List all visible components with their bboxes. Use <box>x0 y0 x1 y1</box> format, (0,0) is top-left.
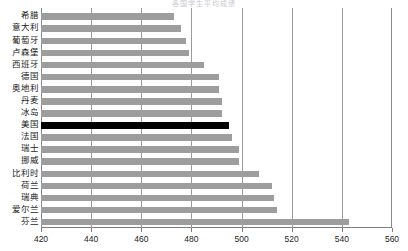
bar-瑞士 <box>41 146 239 153</box>
category-label-卢森堡: 卢森堡 <box>0 48 39 57</box>
x-tick-mark-520 <box>292 228 293 232</box>
x-tick-label-520: 520 <box>272 234 312 244</box>
bar-荷兰 <box>41 183 272 190</box>
category-label-瑞士: 瑞士 <box>0 144 39 153</box>
bar-美国 <box>41 122 229 129</box>
x-tick-mark-420 <box>41 228 42 232</box>
category-label-德国: 德国 <box>0 72 39 81</box>
bar-希腊 <box>41 13 174 20</box>
bar-row <box>41 11 392 24</box>
bar-row <box>41 193 392 206</box>
bar-row <box>41 35 392 48</box>
bar-冰岛 <box>41 110 222 117</box>
bar-芬兰 <box>41 219 349 226</box>
bar-法国 <box>41 134 232 141</box>
x-tick-label-460: 460 <box>121 234 161 244</box>
category-label-葡萄牙: 葡萄牙 <box>0 36 39 45</box>
x-tick-mark-500 <box>242 228 243 232</box>
bar-row <box>41 72 392 85</box>
x-tick-mark-560 <box>392 228 393 232</box>
bar-row <box>41 60 392 73</box>
bar-葡萄牙 <box>41 38 186 45</box>
category-label-瑞典: 瑞典 <box>0 193 39 202</box>
x-tick-mark-460 <box>141 228 142 232</box>
bar-row <box>41 120 392 133</box>
bar-row <box>41 132 392 145</box>
x-tick-label-560: 560 <box>372 234 408 244</box>
x-axis: 420440460480500520540560 <box>0 228 408 250</box>
category-label-挪威: 挪威 <box>0 156 39 165</box>
bar-row <box>41 205 392 218</box>
x-tick-label-540: 540 <box>322 234 362 244</box>
bar-row <box>41 96 392 109</box>
x-tick-label-420: 420 <box>21 234 61 244</box>
bars-container <box>41 8 392 228</box>
bar-row <box>41 23 392 36</box>
category-label-比利时: 比利时 <box>0 169 39 178</box>
x-tick-mark-480 <box>191 228 192 232</box>
x-tick-mark-540 <box>342 228 343 232</box>
category-label-奥地利: 奥地利 <box>0 84 39 93</box>
bar-丹麦 <box>41 98 222 105</box>
category-label-荷兰: 荷兰 <box>0 181 39 190</box>
category-label-意大利: 意大利 <box>0 23 39 32</box>
bar-爱尔兰 <box>41 207 277 214</box>
bar-row <box>41 84 392 97</box>
bar-row <box>41 47 392 60</box>
category-label-芬兰: 芬兰 <box>0 217 39 226</box>
bar-row <box>41 168 392 181</box>
x-tick-label-480: 480 <box>171 234 211 244</box>
bar-挪威 <box>41 158 239 165</box>
bar-瑞典 <box>41 195 274 202</box>
bar-比利时 <box>41 171 259 178</box>
category-label-西班牙: 西班牙 <box>0 60 39 69</box>
bar-row <box>41 144 392 157</box>
category-label-冰岛: 冰岛 <box>0 108 39 117</box>
bar-卢森堡 <box>41 50 189 57</box>
x-tick-mark-440 <box>91 228 92 232</box>
bar-row <box>41 108 392 121</box>
category-label-美国: 美国 <box>0 120 39 129</box>
category-label-希腊: 希腊 <box>0 11 39 20</box>
bar-row <box>41 180 392 193</box>
bar-德国 <box>41 74 219 81</box>
x-tick-label-500: 500 <box>222 234 262 244</box>
category-label-丹麦: 丹麦 <box>0 96 39 105</box>
bar-chart: 各国学生平均成绩 希腊意大利葡萄牙卢森堡西班牙德国奥地利丹麦冰岛美国法国瑞士挪威… <box>0 0 408 251</box>
x-tick-label-440: 440 <box>71 234 111 244</box>
category-label-爱尔兰: 爱尔兰 <box>0 205 39 214</box>
bar-意大利 <box>41 25 181 32</box>
bar-奥地利 <box>41 86 219 93</box>
category-label-法国: 法国 <box>0 132 39 141</box>
chart-title: 各国学生平均成绩 <box>0 0 408 7</box>
bar-西班牙 <box>41 62 204 69</box>
bar-row <box>41 156 392 169</box>
